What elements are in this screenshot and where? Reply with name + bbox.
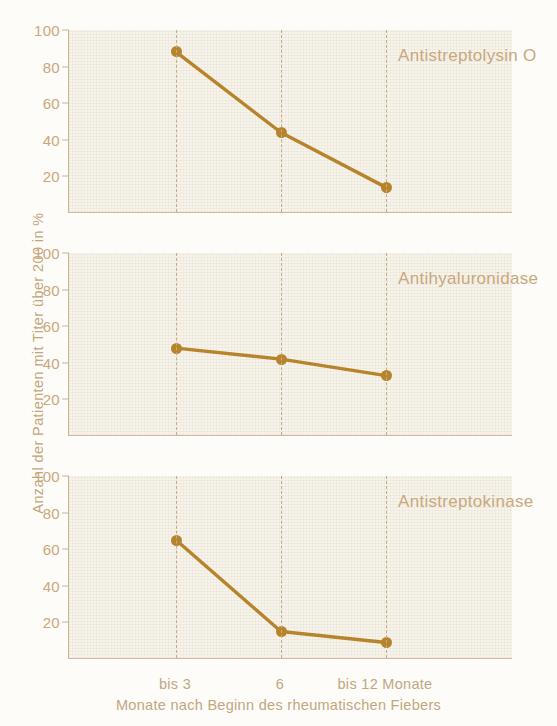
plot-area: Antistreptokinase 20406080100: [68, 476, 512, 659]
y-tick-mark: [62, 326, 69, 327]
x-tick-label: bis 12 Monate: [338, 676, 433, 692]
y-tick-mark: [62, 585, 69, 586]
y-tick-mark: [62, 289, 69, 290]
x-tick-label: 6: [276, 676, 284, 692]
category-gridline: [281, 476, 282, 658]
y-tick-mark: [62, 549, 69, 550]
y-tick-mark: [62, 253, 69, 254]
y-tick-mark: [62, 512, 69, 513]
category-gridline: [386, 476, 387, 658]
chart-figure: Anzahl der Patienten mit Titer über 200 …: [0, 0, 557, 726]
plot-area: Antistreptolysin O 20406080100: [68, 30, 512, 213]
x-tick-label: bis 3: [159, 676, 191, 692]
y-tick-mark: [62, 139, 69, 140]
y-tick-mark: [62, 66, 69, 67]
category-gridline: [176, 253, 177, 435]
y-tick-mark: [62, 176, 69, 177]
y-tick-mark: [62, 30, 69, 31]
panel-caption: Antihyaluronidase: [398, 269, 538, 289]
plot-area: Antihyaluronidase 20406080100: [68, 253, 512, 436]
y-tick-mark: [62, 103, 69, 104]
x-axis-label: Monate nach Beginn des rheumatischen Fie…: [0, 697, 557, 713]
y-tick-mark: [62, 476, 69, 477]
panel-caption: Antistreptokinase: [398, 492, 534, 512]
category-gridline: [386, 30, 387, 212]
category-gridline: [281, 253, 282, 435]
panel-caption: Antistreptolysin O: [398, 46, 537, 66]
y-tick-mark: [62, 362, 69, 363]
x-axis-ticks: bis 36bis 12 Monate: [68, 676, 512, 698]
y-tick-mark: [62, 622, 69, 623]
category-gridline: [176, 30, 177, 212]
category-gridline: [281, 30, 282, 212]
category-gridline: [176, 476, 177, 658]
category-gridline: [386, 253, 387, 435]
y-tick-mark: [62, 399, 69, 400]
